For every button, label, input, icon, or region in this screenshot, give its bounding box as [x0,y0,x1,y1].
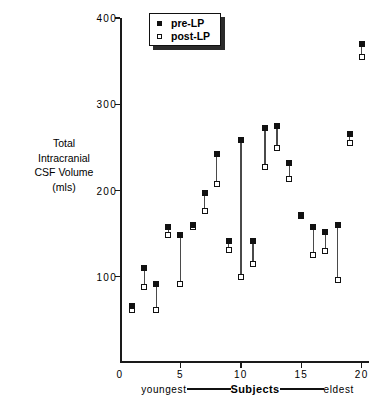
data-point-post-lp-subject-10 [238,274,244,280]
data-point-pre-lp-subject-5 [177,232,183,238]
data-point-pre-lp-subject-3 [153,281,159,287]
y-axis-label-line-3: CSF Volume [18,165,110,180]
legend-label-pre-lp: pre-LP [171,17,204,29]
data-point-pre-lp-subject-11 [250,238,256,244]
x-tick-label-10: 10 [234,369,248,380]
csf-volume-scatter-figure: Total Intracranial CSF Volume (mls) 1002… [0,0,389,414]
data-point-pre-lp-subject-1 [129,303,135,309]
data-point-post-lp-subject-18 [335,277,341,283]
x-tick-label-20: 20 [355,369,369,380]
data-point-pre-lp-subject-18 [335,222,341,228]
x-tick-15 [301,363,302,368]
data-point-pre-lp-subject-15 [298,212,304,218]
data-point-post-lp-subject-19 [347,140,353,146]
data-point-pre-lp-subject-8 [214,151,220,157]
pair-connector-subject-18 [337,225,338,280]
pair-connector-subject-12 [264,128,265,167]
data-point-post-lp-subject-11 [250,261,256,267]
data-point-pre-lp-subject-19 [347,131,353,137]
data-point-post-lp-subject-9 [226,247,232,253]
y-tick-label-100: 100 [96,271,117,282]
x-tick-5 [180,363,181,368]
chart-legend: pre-LP post-LP [149,13,221,46]
data-point-pre-lp-subject-7 [202,190,208,196]
data-point-post-lp-subject-20 [359,54,365,60]
data-point-post-lp-subject-16 [310,252,316,258]
annotation-youngest: youngest [141,384,186,395]
data-point-post-lp-subject-8 [214,181,220,187]
pair-connector-subject-10 [240,140,241,276]
data-point-pre-lp-subject-16 [310,224,316,230]
pair-connector-subject-5 [180,235,181,283]
annotation-eldest: eldest [324,384,354,395]
y-tick-label-200: 200 [96,185,117,196]
data-point-post-lp-subject-3 [153,307,159,313]
pair-connector-subject-8 [216,154,217,184]
annotation-rule-right [280,388,324,390]
data-point-pre-lp-subject-13 [274,123,280,129]
legend-label-post-lp: post-LP [171,30,210,42]
open-square-icon [157,34,162,39]
x-axis-line [120,361,369,363]
data-point-post-lp-subject-5 [177,281,183,287]
x-axis-title: Subjects [231,383,280,395]
y-axis-label-line-2: Intracranial [18,151,110,166]
data-point-post-lp-subject-14 [286,176,292,182]
x-tick-20 [361,363,362,368]
data-point-post-lp-subject-17 [322,248,328,254]
y-axis-line [120,18,122,363]
data-point-post-lp-subject-7 [202,208,208,214]
y-tick-label-300: 300 [96,99,117,110]
data-point-pre-lp-subject-4 [165,224,171,230]
x-axis-annotation: youngest Subjects eldest [120,383,375,395]
filled-square-icon [157,21,162,26]
legend-entry-post-lp: post-LP [157,29,210,43]
x-tick-10 [240,363,241,368]
data-point-pre-lp-subject-2 [141,265,147,271]
x-tick-label-0: 0 [117,369,124,380]
data-point-pre-lp-subject-20 [359,41,365,47]
annotation-rule-left [187,388,231,390]
data-point-post-lp-subject-12 [262,164,268,170]
legend-entry-pre-lp: pre-LP [157,16,204,30]
data-point-pre-lp-subject-14 [286,160,292,166]
data-point-pre-lp-subject-10 [238,137,244,143]
data-point-post-lp-subject-4 [165,232,171,238]
data-point-pre-lp-subject-9 [226,238,232,244]
y-axis-label-line-1: Total [18,136,110,151]
x-tick-label-5: 5 [177,369,184,380]
x-tick-label-15: 15 [294,369,308,380]
data-point-pre-lp-subject-12 [262,125,268,131]
pair-connector-subject-16 [313,227,314,255]
data-point-post-lp-subject-2 [141,284,147,290]
y-tick-label-400: 400 [96,13,117,24]
data-point-pre-lp-subject-17 [322,229,328,235]
data-point-post-lp-subject-13 [274,145,280,151]
data-point-pre-lp-subject-6 [190,222,196,228]
plot-area: 100200300400 05101520 [120,18,369,363]
